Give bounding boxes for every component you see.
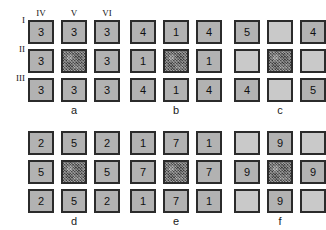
cell-b-r2c2 [163, 49, 189, 73]
panel-e-caption: e [130, 215, 222, 227]
panel-a-cells: 3 3 3 3 3 3 3 3 [28, 20, 120, 102]
cell-b-r3c3: 4 [196, 78, 222, 102]
cell-e-r2c3: 7 [196, 160, 222, 184]
cell-b-r1c1: 4 [130, 20, 156, 44]
cell-b-r3c1: 4 [130, 78, 156, 102]
cell-d-r2c2 [61, 160, 87, 184]
cell-f-r2c3: 9 [300, 160, 326, 184]
panel-a-caption: a [28, 104, 120, 116]
panel-d-cells: 2 5 2 5 5 2 5 2 [28, 131, 120, 213]
row-label-I: I [14, 8, 25, 32]
cell-e-r1c3: 1 [196, 131, 222, 155]
panel-c-cells: 5 4 4 5 [234, 20, 326, 102]
cell-d-r3c2: 5 [61, 189, 87, 213]
cell-a-r2c1: 3 [28, 49, 54, 73]
panel-b-cells: 4 1 4 1 1 4 1 4 [130, 20, 222, 102]
cell-d-r1c1: 2 [28, 131, 54, 155]
cell-a-r3c3: 3 [94, 78, 120, 102]
cell-b-r1c2: 1 [163, 20, 189, 44]
cell-a-r3c1: 3 [28, 78, 54, 102]
cell-f-r1c1 [234, 131, 260, 155]
cell-e-r2c2 [163, 160, 189, 184]
cell-a-r2c3: 3 [94, 49, 120, 73]
panel-f: 9 9 9 9 f [234, 131, 326, 227]
cell-c-r2c3 [300, 49, 326, 73]
cell-d-r2c3: 5 [94, 160, 120, 184]
panel-a-grid-area: I II III IV V VI 3 3 3 3 3 3 3 [14, 8, 120, 116]
cell-b-r2c1: 1 [130, 49, 156, 73]
panel-a-row-labels: I II III [14, 8, 25, 90]
column-label-VI: VI [94, 8, 120, 18]
cell-d-r3c1: 2 [28, 189, 54, 213]
cell-f-r3c2: 9 [267, 189, 293, 213]
cell-d-r3c3: 2 [94, 189, 120, 213]
panel-a: I II III IV V VI 3 3 3 3 3 3 3 [14, 8, 120, 116]
cell-a-r1c3: 3 [94, 20, 120, 44]
cell-a-r1c1: 3 [28, 20, 54, 44]
panel-f-caption: f [234, 215, 326, 227]
cell-f-r3c3 [300, 189, 326, 213]
panel-a-column-labels: IV V VI [28, 8, 120, 18]
cell-d-r2c1: 5 [28, 160, 54, 184]
column-label-V: V [61, 8, 87, 18]
cell-e-r1c2: 7 [163, 131, 189, 155]
cell-a-r2c2 [61, 49, 87, 73]
cell-e-r2c1: 7 [130, 160, 156, 184]
panel-c-caption: c [234, 104, 326, 116]
cell-b-r1c3: 4 [196, 20, 222, 44]
cell-e-r1c1: 1 [130, 131, 156, 155]
cell-e-r3c1: 1 [130, 189, 156, 213]
panel-c: 5 4 4 5 c [234, 20, 326, 116]
panel-f-cells: 9 9 9 9 [234, 131, 326, 213]
cell-c-r2c2 [267, 49, 293, 73]
cell-c-r3c3: 5 [300, 78, 326, 102]
panel-e-cells: 1 7 1 7 7 1 7 1 [130, 131, 222, 213]
cell-b-r3c2: 1 [163, 78, 189, 102]
panel-d: 2 5 2 5 5 2 5 2 d [28, 131, 120, 227]
cell-f-r3c1 [234, 189, 260, 213]
cell-a-r3c2: 3 [61, 78, 87, 102]
cell-c-r3c2 [267, 78, 293, 102]
cell-f-r2c2 [267, 160, 293, 184]
cell-f-r2c1: 9 [234, 160, 260, 184]
row-label-III: III [14, 66, 25, 90]
cell-b-r2c3: 1 [196, 49, 222, 73]
cell-c-r2c1 [234, 49, 260, 73]
cell-c-r1c1: 5 [234, 20, 260, 44]
cell-f-r1c2: 9 [267, 131, 293, 155]
panel-e: 1 7 1 7 7 1 7 1 e [130, 131, 222, 227]
column-label-IV: IV [28, 8, 54, 18]
panel-d-caption: d [28, 215, 120, 227]
panel-a-columns: IV V VI 3 3 3 3 3 3 3 3 a [28, 8, 120, 116]
cell-f-r1c3 [300, 131, 326, 155]
cell-d-r1c3: 2 [94, 131, 120, 155]
panel-b-caption: b [130, 104, 222, 116]
cell-d-r1c2: 5 [61, 131, 87, 155]
cell-e-r3c2: 7 [163, 189, 189, 213]
panel-b: 4 1 4 1 1 4 1 4 b [130, 20, 222, 116]
row-label-II: II [14, 37, 25, 61]
cell-e-r3c3: 1 [196, 189, 222, 213]
cell-c-r1c2 [267, 20, 293, 44]
cell-a-r1c2: 3 [61, 20, 87, 44]
cell-c-r1c3: 4 [300, 20, 326, 44]
cell-c-r3c1: 4 [234, 78, 260, 102]
